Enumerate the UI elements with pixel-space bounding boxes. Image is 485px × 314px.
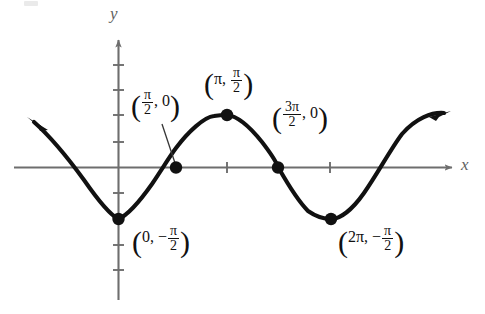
- y-value: 0: [310, 104, 318, 121]
- x-axis-label: x: [461, 155, 469, 175]
- y-value: 0: [162, 92, 170, 109]
- point-label-zero-neg-half-pi: (0, −π2): [132, 224, 190, 254]
- fraction-half-pi: π2: [231, 66, 242, 96]
- x-value: 0: [142, 228, 150, 245]
- paren-close: ): [170, 89, 180, 122]
- paren-open: (: [338, 225, 348, 258]
- point-pi-half-pi: [221, 109, 233, 121]
- comma: ,: [222, 70, 226, 87]
- paren-close: ): [394, 225, 404, 258]
- paren-open: (: [131, 89, 141, 122]
- fraction-half-pi: π2: [382, 224, 393, 254]
- minus-sign: −: [158, 228, 167, 245]
- comma: ,: [364, 228, 368, 245]
- comma: ,: [154, 92, 158, 109]
- comma: ,: [150, 228, 154, 245]
- paren-open: (: [204, 67, 214, 100]
- fraction-half-pi: π2: [168, 224, 179, 254]
- x-value: π: [214, 70, 222, 87]
- point-label-half-pi-zero: (π2, 0): [131, 88, 180, 118]
- point-0-neg-half-pi: [112, 213, 124, 225]
- graph-canvas: [0, 0, 485, 314]
- fraction-half-pi: π2: [142, 88, 153, 118]
- point-label-three-pi-over-two-zero: (3π2, 0): [272, 100, 328, 130]
- point-label-pi-half-pi: (π, π2): [204, 66, 253, 96]
- point-three-pi-2-0: [272, 161, 284, 173]
- point-2pi-neg-half-pi: [325, 213, 337, 225]
- curve-left-arrowhead: [27, 117, 48, 131]
- paren-close: ): [180, 225, 190, 258]
- minus-sign: −: [372, 228, 381, 245]
- paren-open: (: [272, 101, 282, 134]
- paren-close: ): [243, 67, 253, 100]
- point-half-pi-0: [170, 161, 182, 173]
- paren-close: ): [318, 101, 328, 134]
- comma: ,: [302, 104, 306, 121]
- x-value: 2π: [348, 228, 364, 245]
- fraction-three-pi-over-two: 3π2: [283, 100, 301, 130]
- graph-figure: y x (π2, 0) (π, π2) (3π2, 0) (0, −π2) (2…: [0, 0, 485, 314]
- y-axis-label: y: [110, 4, 118, 24]
- point-label-two-pi-neg-half-pi: (2π, −π2): [338, 224, 404, 254]
- cosine-curve: [34, 113, 444, 219]
- paren-open: (: [132, 225, 142, 258]
